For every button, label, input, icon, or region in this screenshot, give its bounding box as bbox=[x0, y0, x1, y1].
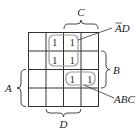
brace-d bbox=[46, 109, 81, 117]
cell-r0-c1: 1 bbox=[52, 37, 57, 48]
brace-a bbox=[17, 70, 26, 107]
leader-abar-d bbox=[78, 28, 112, 40]
label-a: A bbox=[4, 82, 12, 94]
brace-c bbox=[64, 20, 98, 29]
label-c: C bbox=[77, 6, 85, 18]
cell-r2-c2: 1 bbox=[70, 74, 75, 85]
brace-b bbox=[101, 51, 110, 88]
cell-values: 1 1 1 1 1 1 bbox=[52, 37, 92, 85]
cell-r2-c3: 1 bbox=[87, 74, 92, 85]
cell-r1-c2: 1 bbox=[70, 55, 75, 66]
label-group-abar-d: AD bbox=[114, 22, 130, 34]
label-d: D bbox=[59, 118, 68, 130]
label-b: B bbox=[113, 64, 120, 76]
kmap-grid bbox=[29, 33, 99, 107]
cell-r0-c2: 1 bbox=[70, 37, 75, 48]
karnaugh-map: 1 1 1 1 1 1 C B A D AD ABC bbox=[0, 0, 138, 133]
label-group-abc: ABC bbox=[113, 93, 135, 105]
cell-r1-c1: 1 bbox=[52, 55, 57, 66]
